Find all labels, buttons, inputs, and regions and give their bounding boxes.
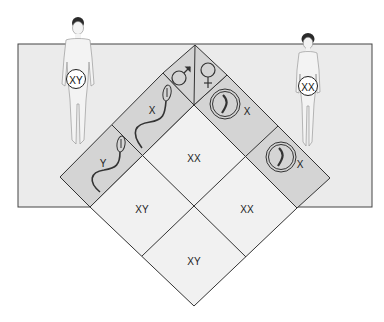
offspring-label: XX [240, 204, 254, 215]
offspring-label: XY [135, 204, 149, 215]
offspring-label: XX [187, 153, 201, 164]
female-gamete-label: X [297, 159, 304, 170]
male-gamete-label: X [149, 105, 156, 116]
offspring-label: XY [187, 256, 201, 267]
punnett-diagram: X Y X X XX XY XX XY XY XX [0, 0, 384, 322]
male-genotype-label: XY [69, 75, 83, 86]
female-gamete-label: X [244, 106, 251, 117]
male-gamete-label: Y [100, 158, 107, 169]
female-genotype-label: XX [301, 82, 315, 93]
